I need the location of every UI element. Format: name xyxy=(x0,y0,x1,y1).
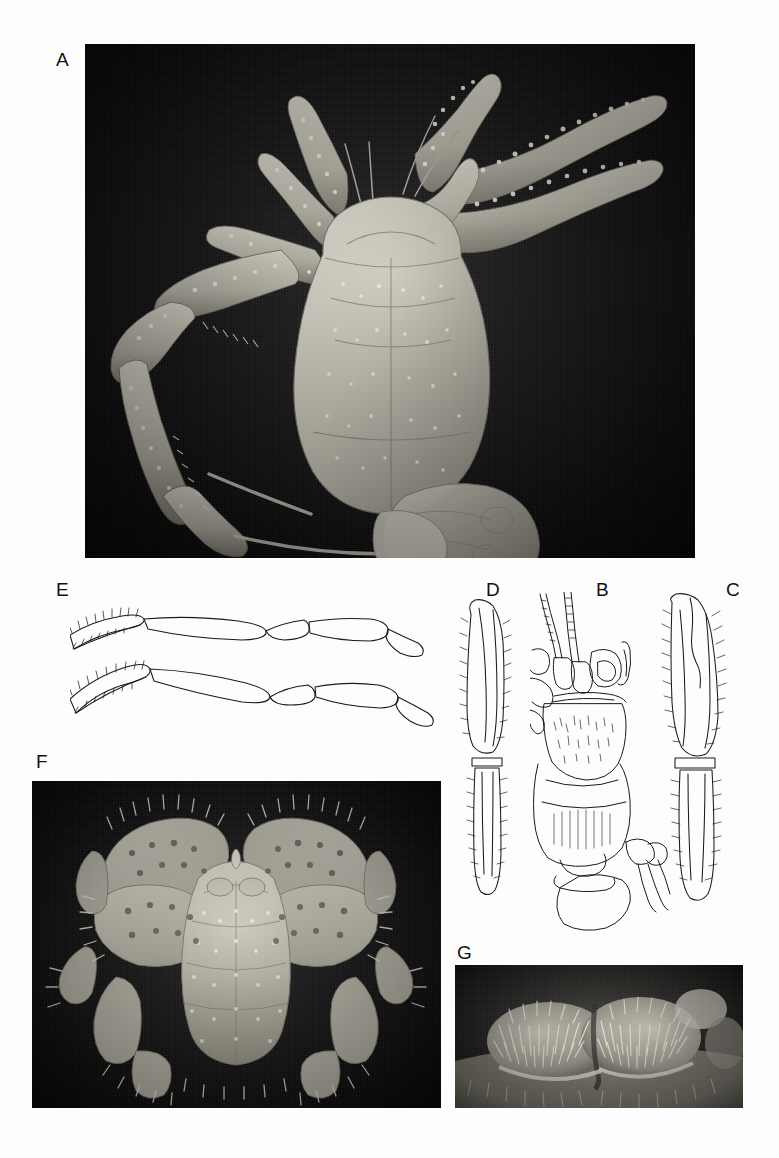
panel-c-chela-art xyxy=(650,592,740,922)
figure-plate: A xyxy=(0,0,779,1158)
panel-g-eyes-art xyxy=(455,965,743,1108)
panel-a-carapace xyxy=(294,197,490,514)
panel-d-line-drawing xyxy=(455,592,533,922)
panel-e-line-drawing xyxy=(70,595,480,745)
panel-a-specimen-art xyxy=(85,44,695,558)
panel-label-a: A xyxy=(56,50,69,69)
panel-g-photograph xyxy=(455,965,743,1108)
panel-label-e: E xyxy=(56,580,69,599)
panel-a-photograph xyxy=(85,44,695,558)
panel-label-g: G xyxy=(457,943,472,962)
panel-f-specimen-art xyxy=(32,781,441,1108)
panel-e-appendage-art xyxy=(70,595,480,745)
panel-f-photograph xyxy=(32,781,441,1108)
panel-label-f: F xyxy=(36,752,48,771)
panel-c-line-drawing xyxy=(650,592,740,922)
panel-d-appendage-art xyxy=(455,592,533,922)
